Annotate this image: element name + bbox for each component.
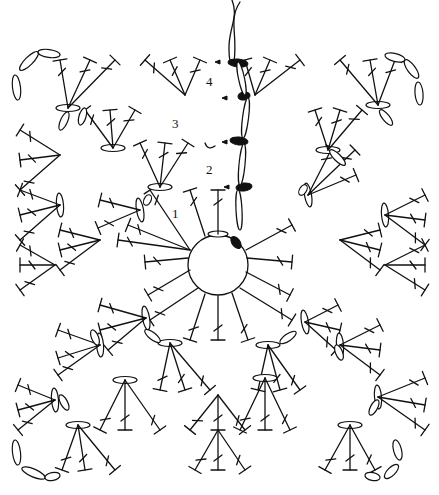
dc-stitch-stem <box>185 60 200 95</box>
dc-top-bar <box>239 466 251 474</box>
dc-top-bar <box>103 109 117 110</box>
dc-top-bar <box>110 466 121 475</box>
dc-stitch-stem <box>340 60 378 105</box>
dc-stitch-stem <box>385 265 425 290</box>
dc-slash <box>292 375 295 385</box>
dc-stitch-stem <box>340 230 380 240</box>
dc-stitch-stem <box>170 343 185 390</box>
dc-slash <box>322 158 332 160</box>
start-arrow-icon <box>222 96 227 100</box>
chain-stitch <box>384 51 406 64</box>
dc-top-bar <box>357 105 368 114</box>
dc-stitch-stem <box>20 155 60 190</box>
dc-slash <box>279 285 281 295</box>
dc-slash <box>68 244 76 250</box>
chain-stitch <box>11 75 22 101</box>
dc-stitch-stem <box>20 265 55 290</box>
dc-slash <box>65 261 75 264</box>
dc-stitch-stem <box>18 385 55 400</box>
dc-top-bar <box>140 55 149 66</box>
chain-stitch <box>364 471 381 482</box>
chain-stitch <box>17 49 41 73</box>
dc-top-bar <box>422 372 427 385</box>
dc-stitch-stem <box>160 343 170 390</box>
round-label-2: 2 <box>206 162 213 177</box>
dc-stitch-stem <box>378 397 425 430</box>
dc-stitch-stem <box>20 130 60 155</box>
dc-stitch-stem <box>62 425 78 470</box>
dc-stitch-stem <box>305 305 338 322</box>
dc-slash <box>65 352 73 358</box>
dc-slash <box>91 115 94 125</box>
dc-stitch-stem <box>218 430 245 470</box>
start-arrow-icon <box>215 60 220 64</box>
dc-slash <box>316 117 322 125</box>
dc-top-bar <box>422 239 428 252</box>
dc-stitch-stem <box>240 378 265 430</box>
dc-top-bar <box>144 289 151 301</box>
chain-stitch <box>382 462 401 481</box>
dc-stitch-stem <box>140 143 160 187</box>
dc-slash <box>326 459 336 460</box>
dc-top-bar <box>379 343 381 357</box>
dc-top-bar <box>16 124 23 136</box>
chain-stitch <box>37 48 60 59</box>
dc-top-bar <box>287 289 293 301</box>
chain-stitch <box>377 108 394 127</box>
dc-top-bar <box>189 467 201 474</box>
dc-top-bar <box>158 142 172 144</box>
dc-top-bar <box>54 369 62 380</box>
dc-stitch-stem <box>150 190 190 250</box>
dc-top-bar <box>294 386 305 394</box>
dc-stitch-stem <box>378 378 425 397</box>
dc-stitch-stem <box>378 397 425 405</box>
chain-stitch <box>237 144 247 186</box>
dc-stitch-stem <box>125 380 160 430</box>
dc-stitch-stem <box>246 272 290 295</box>
dc-top-bar <box>94 427 107 433</box>
chain-stitch <box>235 190 243 230</box>
dc-top-bar <box>134 140 147 146</box>
dc-top-bar <box>421 424 429 435</box>
dc-top-bar <box>289 219 296 231</box>
dc-slash <box>25 282 35 285</box>
dc-top-bar <box>182 139 194 147</box>
start-arrow-icon <box>222 140 227 144</box>
dc-top-bar <box>19 153 21 167</box>
round-label-4: 4 <box>206 74 213 89</box>
dc-stitch-stem <box>385 245 425 265</box>
dc-stitch-stem <box>328 110 340 150</box>
dc-stitch-stem <box>148 270 190 295</box>
dc-slash <box>196 459 206 460</box>
dc-slash <box>30 246 31 256</box>
dc-stitch-stem <box>255 60 300 95</box>
dc-top-bar <box>288 314 295 326</box>
dc-top-bar <box>335 299 341 311</box>
dc-top-bar <box>125 219 130 232</box>
dc-slash <box>100 418 110 420</box>
dc-slash <box>22 421 32 423</box>
slip-stitch <box>229 235 243 251</box>
dc-top-bar <box>376 369 384 380</box>
dc-slash <box>63 367 73 370</box>
dc-stitch-stem <box>60 60 68 108</box>
dc-stitch-stem <box>145 60 185 95</box>
dc-stitch-stem <box>268 345 280 390</box>
dc-slash <box>28 209 36 215</box>
dc-slash <box>124 120 134 121</box>
dc-slash <box>241 325 247 333</box>
dc-slash <box>177 153 187 154</box>
dc-top-bar <box>194 57 207 63</box>
dc-stitch-stem <box>190 395 218 430</box>
dc-top-bar <box>284 427 297 433</box>
dc-stitch-stem <box>20 190 60 205</box>
dc-top-bar <box>353 169 358 182</box>
dc-slash <box>245 68 251 76</box>
dc-stitch-stem <box>20 155 60 160</box>
chain-stitch <box>391 439 404 461</box>
dc-top-bar <box>95 222 101 235</box>
dc-stitch-stem <box>68 60 115 108</box>
dc-top-bar <box>319 467 331 474</box>
dc-top-bar <box>14 425 23 436</box>
dc-stitch-stem <box>246 225 292 250</box>
